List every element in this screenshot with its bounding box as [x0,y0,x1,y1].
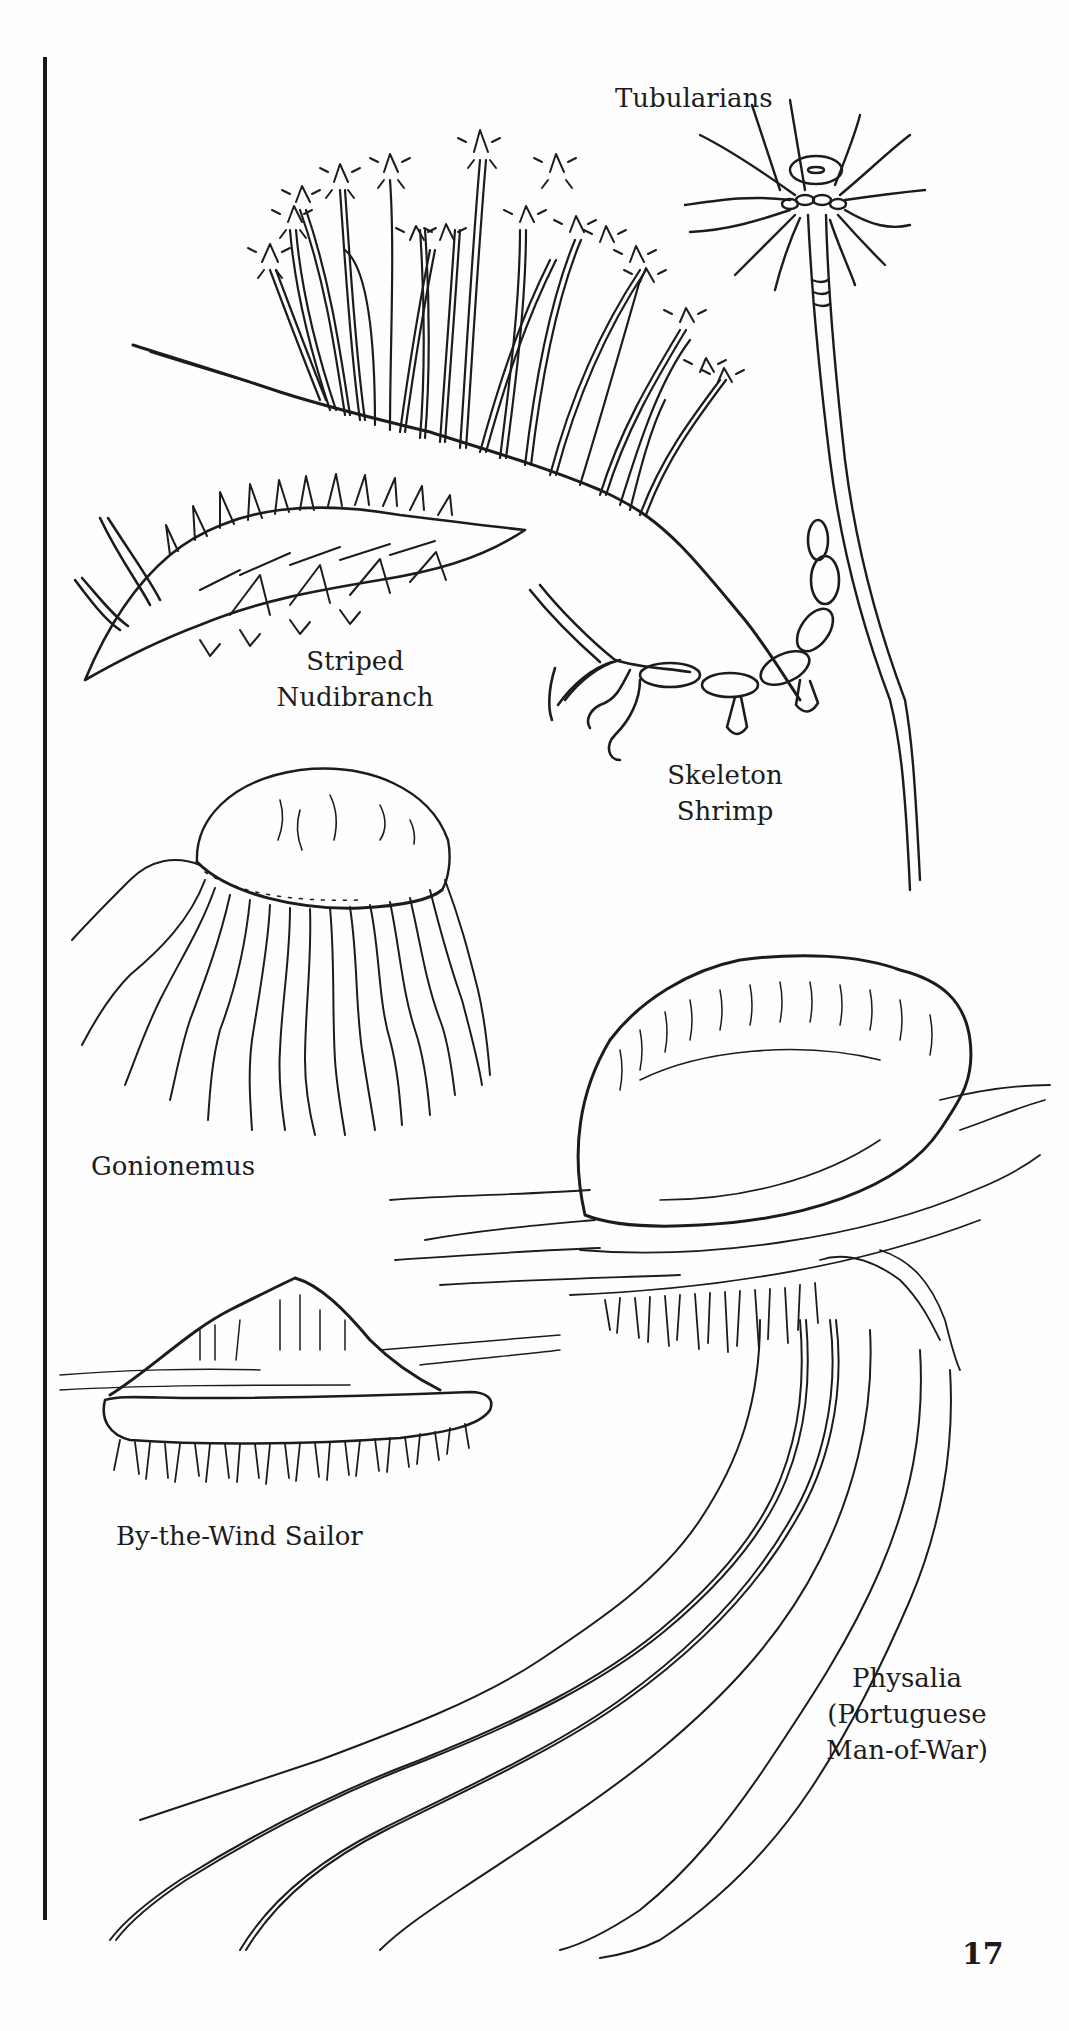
tubularians-illustration [133,100,925,890]
label-line: Man-of-War) [812,1732,1002,1768]
label-line: By-the-Wind Sailor [116,1521,363,1551]
by-the-wind-sailor-illustration [60,1278,560,1484]
label-gonionemus: Gonionemus [91,1148,255,1184]
page-number: 17 [962,1936,1004,1971]
label-line: Nudibranch [262,679,448,715]
label-line: (Portuguese [812,1696,1002,1732]
label-line: Physalia [812,1660,1002,1696]
label-skeleton-shrimp: Skeleton Shrimp [655,757,795,829]
skeleton-shrimp-illustration [530,520,840,760]
book-page: Tubularians Striped Nudibranch Skeleton … [0,0,1069,2031]
label-striped-nudibranch: Striped Nudibranch [262,643,448,715]
label-tubularians: Tubularians [615,80,773,116]
label-by-the-wind-sailor: By-the-Wind Sailor [116,1518,363,1554]
label-line: Striped [262,643,448,679]
label-line: Skeleton [655,757,795,793]
label-line: Shrimp [655,793,795,829]
label-physalia: Physalia (Portuguese Man-of-War) [812,1660,1002,1768]
gonionemus-illustration [72,769,490,1135]
label-line: Tubularians [615,83,773,113]
label-line: Gonionemus [91,1151,255,1181]
